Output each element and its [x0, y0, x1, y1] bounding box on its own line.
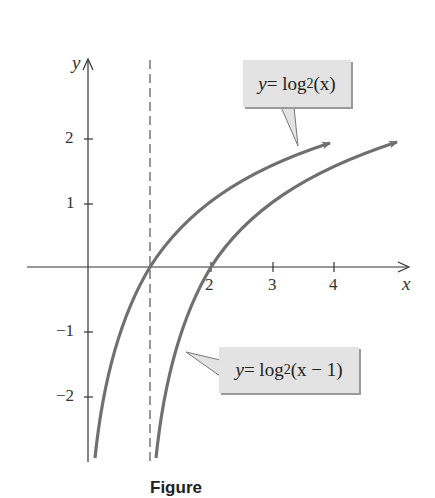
callout-arg: (x − 1) — [291, 359, 343, 381]
y-tick-label-neg1: −1 — [56, 321, 74, 341]
callout-var: y — [235, 359, 243, 381]
curve-log2-x — [95, 143, 330, 458]
y-tick-label-1: 1 — [66, 193, 75, 213]
x-tick-label-3: 3 — [268, 275, 277, 295]
callout-eq: = log — [244, 359, 284, 381]
callout-log2-x: y = log2(x) — [243, 60, 351, 107]
callout-bottom-pointer — [186, 352, 220, 376]
callout-arg: (x) — [314, 73, 336, 95]
x-axis — [27, 262, 409, 272]
callout-top-pointer — [281, 107, 298, 146]
callout-eq: = log — [267, 73, 307, 95]
curve-log2-x-minus-1 — [156, 142, 397, 458]
x-tick-label-2: 2 — [205, 275, 214, 295]
x-axis-label: x — [402, 273, 410, 295]
y-axis-label: y — [72, 52, 80, 74]
callout-log2-x-minus-1: y = log2(x − 1) — [219, 347, 359, 393]
y-axis — [83, 59, 93, 462]
figure-caption: Figure — [150, 478, 202, 498]
callout-var: y — [258, 73, 266, 95]
y-tick-label-2: 2 — [65, 128, 74, 148]
x-tick-label-4: 4 — [329, 275, 338, 295]
y-tick-label-neg2: −2 — [56, 386, 74, 406]
